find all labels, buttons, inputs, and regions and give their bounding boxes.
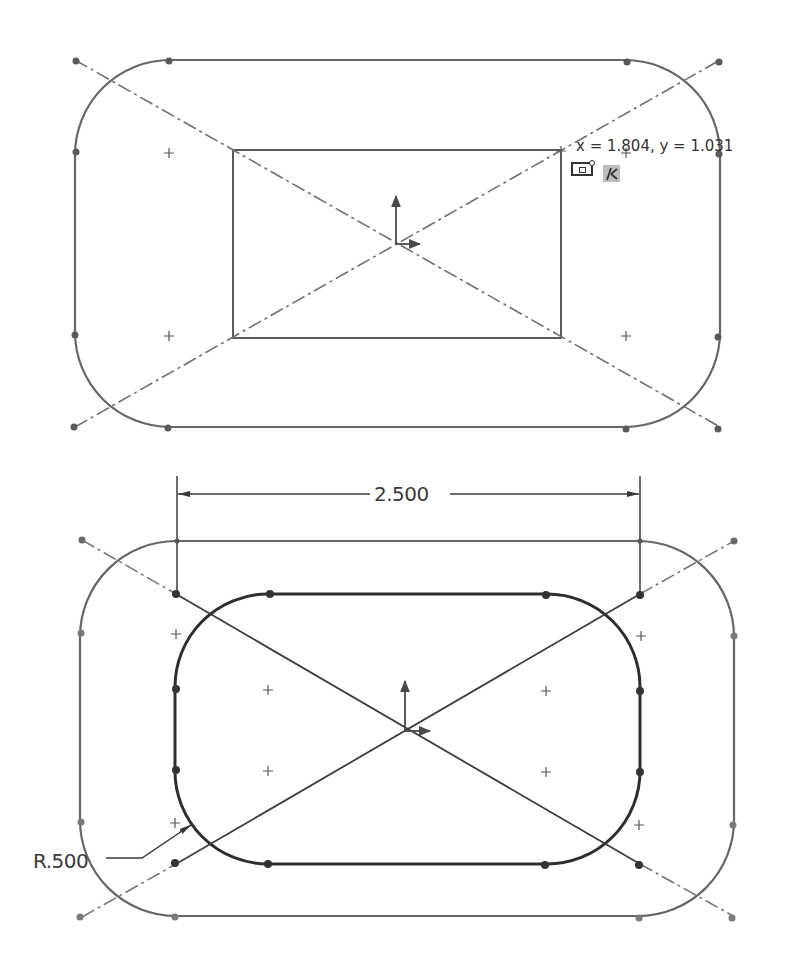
sketch-point[interactable] xyxy=(731,633,738,640)
radius-dimension-label[interactable]: R.500 xyxy=(33,851,88,871)
sketch-point[interactable] xyxy=(636,687,644,695)
sketch-point[interactable] xyxy=(624,59,631,66)
arc-center-mark xyxy=(541,686,551,696)
sketch-point[interactable] xyxy=(635,861,643,869)
sketch-point[interactable] xyxy=(172,685,180,693)
sketch-point[interactable] xyxy=(542,591,550,599)
sketch-point[interactable] xyxy=(716,59,723,66)
arc-center-mark xyxy=(634,820,644,830)
arc-center-mark xyxy=(170,818,180,828)
rectangle-corner-point-icon xyxy=(589,160,595,166)
sketch-point[interactable] xyxy=(77,914,84,921)
sketch-point[interactable] xyxy=(171,859,179,867)
arc-center-mark xyxy=(263,766,273,776)
sketch-point[interactable] xyxy=(78,819,85,826)
width-dimension-label[interactable]: 2.500 xyxy=(371,484,432,504)
leader-arrow xyxy=(180,825,191,832)
cursor-crosshair-icon xyxy=(556,146,566,156)
sketch-point[interactable] xyxy=(71,424,78,431)
sketch-point[interactable] xyxy=(172,914,179,921)
arc-center-mark xyxy=(621,331,631,341)
arc-center-mark xyxy=(263,685,273,695)
construction-diagonal[interactable] xyxy=(82,540,176,594)
sketch-point[interactable] xyxy=(172,590,180,598)
sketch-point[interactable] xyxy=(72,332,79,339)
arc-center-mark xyxy=(164,148,174,158)
sketch-point[interactable] xyxy=(636,768,644,776)
sketch-point[interactable] xyxy=(730,822,737,829)
leader-line xyxy=(106,825,191,858)
radius-dimension[interactable] xyxy=(106,825,191,858)
sketch-point[interactable] xyxy=(165,425,172,432)
sketch-point[interactable] xyxy=(266,590,274,598)
bottom-sketch xyxy=(77,476,738,922)
cursor-coordinate-readout: x = 1.804, y = 1.031 xyxy=(576,139,733,154)
coincident-relation-icon xyxy=(603,165,620,182)
sketch-point[interactable] xyxy=(715,426,722,433)
arc-center-mark xyxy=(541,767,551,777)
sketch-point[interactable] xyxy=(73,149,80,156)
sketch-point[interactable] xyxy=(175,539,180,544)
sketch-point[interactable] xyxy=(623,426,630,433)
sketch-point[interactable] xyxy=(166,58,173,65)
sketch-point[interactable] xyxy=(729,915,736,922)
sketch-point[interactable] xyxy=(79,537,86,544)
arc-center-mark xyxy=(636,631,646,641)
rectangle-sketch-icon xyxy=(571,162,593,176)
sketch-point[interactable] xyxy=(638,539,643,544)
construction-diagonal[interactable] xyxy=(640,864,735,917)
arc-center-mark xyxy=(171,629,181,639)
sketch-point[interactable] xyxy=(264,860,272,868)
top-sketch xyxy=(71,58,723,433)
arc-center-mark xyxy=(164,331,174,341)
sketch-point[interactable] xyxy=(715,334,722,341)
sketch-point[interactable] xyxy=(731,538,738,545)
sketch-point[interactable] xyxy=(78,630,85,637)
sketch-point[interactable] xyxy=(73,58,80,65)
sketch-point[interactable] xyxy=(172,766,180,774)
sketch-point[interactable] xyxy=(541,861,549,869)
sketch-point[interactable] xyxy=(636,591,644,599)
sketch-point[interactable] xyxy=(636,915,643,922)
